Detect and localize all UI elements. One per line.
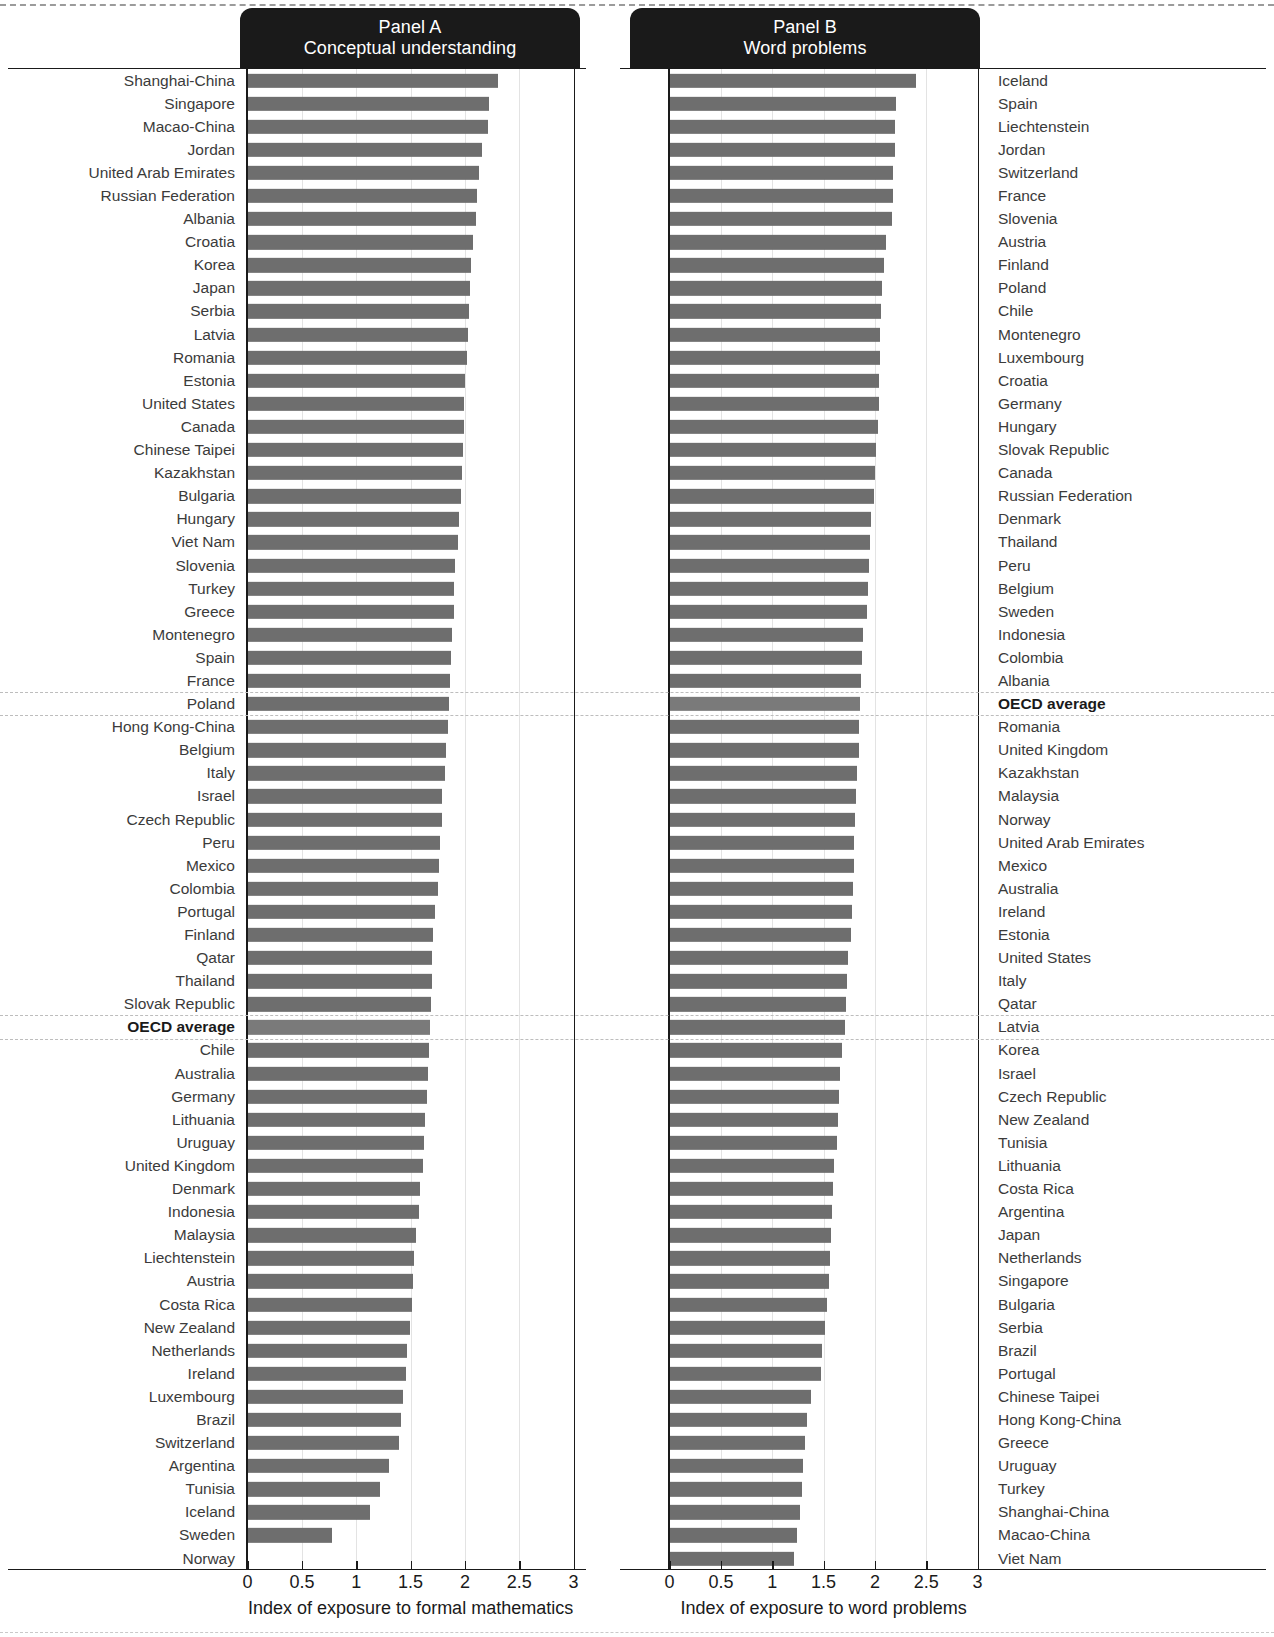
- value-bar: [248, 651, 451, 665]
- bar-track: [248, 92, 574, 115]
- table-row: Albania: [620, 669, 1266, 692]
- country-label: Netherlands: [8, 1342, 244, 1360]
- bar-track: [670, 161, 978, 184]
- bar-track: [248, 1339, 574, 1362]
- value-bar: [670, 1505, 800, 1519]
- country-label: Slovak Republic: [8, 995, 244, 1013]
- table-row: Spain: [8, 646, 586, 669]
- value-bar: [670, 1390, 812, 1404]
- bar-track: [670, 1085, 978, 1108]
- value-bar: [670, 1459, 803, 1473]
- bar-track: [248, 1016, 574, 1039]
- top-divider-rule: [0, 4, 1274, 6]
- value-bar: [670, 489, 874, 503]
- table-row: Greece: [620, 1432, 1266, 1455]
- axis-tick: [519, 1561, 520, 1570]
- value-bar: [670, 1297, 827, 1311]
- bar-track: [670, 716, 978, 739]
- country-label: Serbia: [8, 302, 244, 320]
- value-bar: [670, 1344, 822, 1358]
- value-bar: [670, 1043, 842, 1057]
- country-label: Brazil: [8, 1411, 244, 1429]
- value-bar: [670, 535, 870, 549]
- table-row: New Zealand: [620, 1108, 1266, 1131]
- bottom-divider-rule: [0, 1632, 1274, 1633]
- bar-track: [248, 600, 574, 623]
- country-label: Sweden: [8, 1526, 244, 1544]
- table-row: Tunisia: [8, 1478, 586, 1501]
- bar-track: [248, 1201, 574, 1224]
- bar-track: [248, 392, 574, 415]
- value-bar: [670, 1251, 830, 1265]
- axis-tick: [465, 1561, 466, 1570]
- axis-tick-label: 0.5: [289, 1572, 314, 1593]
- bar-track: [248, 231, 574, 254]
- country-label: Singapore: [8, 95, 244, 113]
- bar-track: [670, 646, 978, 669]
- bar-track: [248, 554, 574, 577]
- country-label: United States: [8, 395, 244, 413]
- country-label: Iceland: [986, 69, 1048, 92]
- table-row: Israel: [620, 1062, 1266, 1085]
- table-row: Hungary: [8, 508, 586, 531]
- axis-tick: [574, 1561, 575, 1570]
- table-row: Kazakhstan: [620, 762, 1266, 785]
- country-label: Liechtenstein: [986, 115, 1089, 138]
- table-row: Norway: [620, 808, 1266, 831]
- country-label: Bulgaria: [986, 1293, 1055, 1316]
- value-bar: [248, 420, 464, 434]
- axis-tick-label: 2: [870, 1572, 880, 1593]
- value-bar: [670, 1528, 797, 1542]
- country-label: Estonia: [986, 923, 1050, 946]
- table-row: United Arab Emirates: [8, 161, 586, 184]
- table-row: Uruguay: [620, 1455, 1266, 1478]
- bar-track: [248, 854, 574, 877]
- bar-track: [248, 716, 574, 739]
- table-row: Denmark: [620, 508, 1266, 531]
- bar-track: [670, 462, 978, 485]
- table-row: Colombia: [8, 877, 586, 900]
- bar-track: [670, 369, 978, 392]
- table-row: Denmark: [8, 1178, 586, 1201]
- country-label: Romania: [986, 716, 1060, 739]
- value-bar: [248, 374, 465, 388]
- value-bar: [248, 1113, 425, 1127]
- country-label: Singapore: [986, 1270, 1069, 1293]
- oecd-average-rule: [0, 1015, 1274, 1016]
- country-label: Chile: [986, 300, 1033, 323]
- country-label: Greece: [8, 603, 244, 621]
- bar-track: [670, 1478, 978, 1501]
- value-bar: [248, 743, 447, 757]
- bar-track: [248, 923, 574, 946]
- country-label: Finland: [986, 254, 1049, 277]
- country-label: Indonesia: [986, 623, 1065, 646]
- axis-tick-label: 1.5: [398, 1572, 423, 1593]
- value-bar: [248, 466, 462, 480]
- value-bar: [670, 882, 854, 896]
- value-bar: [670, 235, 887, 249]
- value-bar: [248, 1020, 431, 1034]
- country-label: Poland: [8, 695, 244, 713]
- table-row: Luxembourg: [8, 1385, 586, 1408]
- table-row: Colombia: [620, 646, 1266, 669]
- bar-track: [670, 1201, 978, 1224]
- bar-track: [670, 854, 978, 877]
- axis-tick-label: 0: [665, 1572, 675, 1593]
- value-bar: [670, 835, 855, 849]
- panel-b-x-axis: 00.511.522.53Index of exposure to word p…: [620, 1570, 1266, 1630]
- value-bar: [670, 651, 862, 665]
- country-label: Albania: [8, 210, 244, 228]
- bar-track: [248, 415, 574, 438]
- value-bar: [248, 1274, 413, 1288]
- bar-track: [248, 346, 574, 369]
- value-bar: [248, 1436, 399, 1450]
- country-label: Israel: [986, 1062, 1036, 1085]
- table-row: Korea: [620, 1039, 1266, 1062]
- country-label: Thailand: [986, 531, 1057, 554]
- bar-track: [248, 115, 574, 138]
- bar-track: [670, 1039, 978, 1062]
- bar-track: [670, 1339, 978, 1362]
- value-bar: [248, 212, 476, 226]
- table-row: Czech Republic: [620, 1085, 1266, 1108]
- value-bar: [670, 766, 858, 780]
